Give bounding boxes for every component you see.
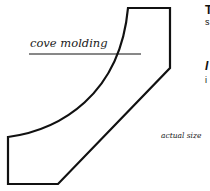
cove-molding-profile	[0, 0, 210, 191]
cropped-heading-fragment: T	[205, 3, 210, 17]
size-caption: actual size	[161, 131, 201, 140]
molding-outline	[8, 8, 170, 184]
cropped-text-fragment: s	[205, 17, 210, 27]
cropped-text-fragment-2: i	[205, 75, 207, 85]
callout-label: cove molding	[30, 36, 108, 50]
cropped-heading-fragment-2: I	[205, 59, 208, 73]
